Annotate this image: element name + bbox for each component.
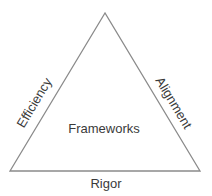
triangle-diagram: Frameworks Efficiency Alignment Rigor <box>0 0 212 196</box>
center-label: Frameworks <box>68 121 140 136</box>
side-label-bottom: Rigor <box>90 176 122 191</box>
side-label-left: Efficiency <box>13 75 55 131</box>
